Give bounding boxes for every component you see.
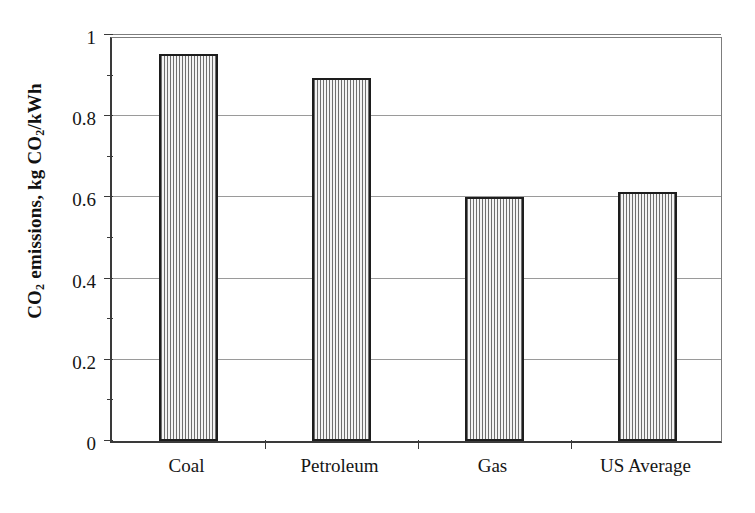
y-axis-tick-major xyxy=(104,115,113,116)
y-axis-tick-major xyxy=(104,359,113,360)
y-axis-tick-label: 0.6 xyxy=(72,190,96,209)
bar xyxy=(618,192,678,441)
y-axis-tick-major xyxy=(104,278,113,279)
y-axis-tick-label: 1 xyxy=(87,28,97,47)
y-axis-tick-major xyxy=(104,34,113,35)
y-axis-tick-major xyxy=(104,440,113,441)
gridline xyxy=(112,34,721,35)
x-axis-tick xyxy=(265,440,266,449)
x-axis-tick xyxy=(571,440,572,449)
plot-area xyxy=(110,37,722,443)
y-axis-tick-label: 0 xyxy=(87,434,97,453)
y-axis-tick-minor xyxy=(107,156,113,157)
y-axis-tick-minor xyxy=(107,75,113,76)
x-axis-tick-label: Coal xyxy=(169,455,205,477)
chart-container: CO2 emissions, kg CO2/kWh 00.20.40.60.81… xyxy=(0,0,755,513)
bar xyxy=(159,54,219,441)
y-axis-tick-label: 0.2 xyxy=(72,352,96,371)
y-axis-tick-label-group: 00.20.40.60.81 xyxy=(0,37,104,443)
y-axis-tick-major xyxy=(104,196,113,197)
x-axis-tick xyxy=(418,440,419,449)
y-axis-tick-minor xyxy=(107,237,113,238)
bar xyxy=(465,197,525,441)
bar xyxy=(312,78,372,441)
x-axis-tick-label: US Average xyxy=(600,455,691,477)
x-axis-tick-label: Gas xyxy=(478,455,508,477)
y-axis-tick-minor xyxy=(107,318,113,319)
x-axis-tick-label: Petroleum xyxy=(300,455,378,477)
x-axis-tick-label-group: CoalPetroleumGasUS Average xyxy=(110,455,722,495)
y-axis-tick-minor xyxy=(107,399,113,400)
y-axis-tick-label: 0.4 xyxy=(72,271,96,290)
y-axis-tick-label: 0.8 xyxy=(72,109,96,128)
